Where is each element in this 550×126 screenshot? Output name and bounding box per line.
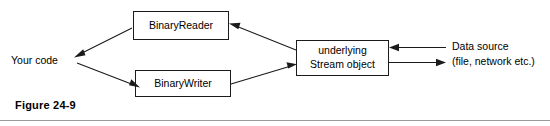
edge-writer-to-stream <box>231 62 297 84</box>
edge-data-source-to-stream-arrowhead <box>389 44 399 51</box>
figure-container: BinaryReader BinaryWriter underlying Str… <box>0 0 550 126</box>
stream-object-label-line2: Stream object <box>310 58 375 70</box>
edge-stream-to-data-source <box>389 59 446 66</box>
edge-your-code-to-writer <box>77 63 140 88</box>
your-code-label: Your code <box>11 54 58 66</box>
bottom-divider <box>0 120 550 121</box>
edge-stream-to-reader-line <box>236 26 296 50</box>
edge-stream-to-reader-arrowhead <box>229 23 241 30</box>
data-source-label-line2: (file, network etc.) <box>452 55 535 67</box>
diagram-canvas: BinaryReader BinaryWriter underlying Str… <box>0 0 550 126</box>
edge-your-code-to-writer-line <box>77 63 134 85</box>
binary-writer-node: BinaryWriter <box>136 71 231 97</box>
binary-writer-label: BinaryWriter <box>154 77 212 89</box>
edge-reader-to-your-code <box>74 28 132 58</box>
stream-object-node: underlying Stream object <box>297 41 389 76</box>
edge-reader-to-your-code-arrowhead <box>74 49 86 57</box>
figure-caption: Figure 24-9 <box>15 99 76 111</box>
edge-stream-to-reader <box>229 23 296 50</box>
edge-writer-to-stream-line <box>231 66 291 84</box>
edge-reader-to-your-code-line <box>80 28 132 54</box>
data-source-label-line1: Data source <box>452 40 509 52</box>
binary-reader-node: BinaryReader <box>134 12 229 40</box>
edge-data-source-to-stream <box>389 44 446 51</box>
binary-reader-label: BinaryReader <box>149 19 214 31</box>
stream-object-label-line1: underlying <box>318 44 367 56</box>
edge-stream-to-data-source-arrowhead <box>436 59 446 66</box>
edge-writer-to-stream-arrowhead <box>287 62 298 68</box>
